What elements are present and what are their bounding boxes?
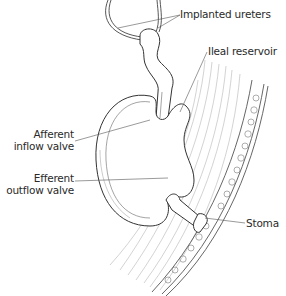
label-stoma: Stoma [246,217,279,229]
label-efferent-line1: Efferent [6,172,74,184]
efferent-outflow-tube [166,194,207,232]
diagram-canvas: Implanted ureters Ileal reservoir Affere… [0,0,286,296]
label-efferent-outflow-valve: Efferent outflow valve [6,172,74,196]
label-afferent-line2: inflow valve [14,140,74,152]
label-afferent-line1: Afferent [14,128,74,140]
label-ileal-reservoir: Ileal reservoir [208,45,277,57]
label-implanted-ureters: Implanted ureters [180,8,271,20]
label-afferent-inflow-valve: Afferent inflow valve [14,128,74,152]
label-efferent-line2: outflow valve [6,184,74,196]
